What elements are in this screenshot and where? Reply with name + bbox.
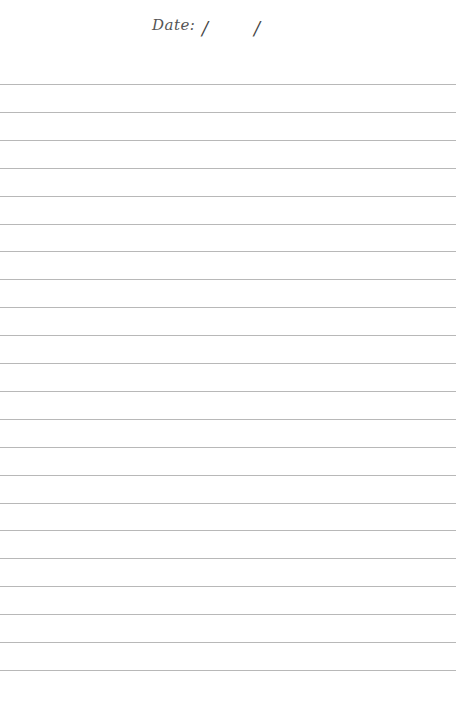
- ruled-line: [0, 530, 456, 531]
- ruled-line: [0, 279, 456, 280]
- ruled-line: [0, 475, 456, 476]
- date-label: Date:: [152, 16, 195, 34]
- ruled-line: [0, 168, 456, 169]
- ruled-line: [0, 447, 456, 448]
- ruled-line: [0, 335, 456, 336]
- ruled-line: [0, 614, 456, 615]
- ruled-line: [0, 112, 456, 113]
- ruled-line: [0, 251, 456, 252]
- ruled-line: [0, 84, 456, 85]
- ruled-line: [0, 224, 456, 225]
- date-field: Date: / /: [152, 16, 195, 34]
- ruled-line: [0, 419, 456, 420]
- ruled-line: [0, 586, 456, 587]
- ruled-line: [0, 670, 456, 671]
- ruled-line: [0, 503, 456, 504]
- ruled-line: [0, 140, 456, 141]
- ruled-line: [0, 363, 456, 364]
- date-separator-2: /: [254, 18, 260, 39]
- date-separator-1: /: [202, 18, 208, 39]
- ruled-line: [0, 558, 456, 559]
- ruled-line: [0, 196, 456, 197]
- ruled-line: [0, 307, 456, 308]
- ruled-line: [0, 642, 456, 643]
- ruled-line: [0, 391, 456, 392]
